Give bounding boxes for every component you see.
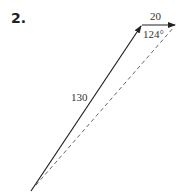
vector-20-label: 20 <box>150 10 162 22</box>
resultant-vector-dashed-line <box>36 27 174 185</box>
vector-130-label: 130 <box>71 91 88 103</box>
vector-130-arrow <box>31 26 141 191</box>
angle-label: 124° <box>143 28 164 40</box>
vector-diagram: 130 20 124° <box>0 0 185 194</box>
